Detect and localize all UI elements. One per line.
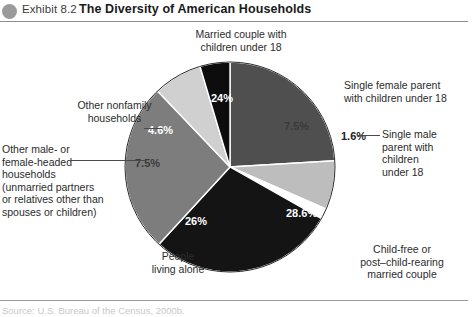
page-title: The Diversity of American Households bbox=[79, 2, 311, 16]
exhibit-figure: Exhibit 8.2 The Diversity of American Ho… bbox=[0, 0, 475, 317]
circle-bullet-icon bbox=[2, 4, 17, 19]
slice-value-single-female-parent: 7.5% bbox=[284, 120, 309, 132]
slice-value-married-couple-with-children: 24% bbox=[211, 92, 233, 104]
footer-divider bbox=[0, 300, 468, 301]
leader-line-other-nonfamily-households bbox=[144, 128, 162, 129]
slice-value-child-free-married-couple: 28.6% bbox=[286, 207, 317, 219]
slice-value-single-male-parent: 1.6% bbox=[341, 130, 366, 142]
callout-label-other-male-or-female-headed-households: Other male- or female-headed households … bbox=[2, 143, 140, 218]
callout-label-married-couple-with-children: Married couple with children under 18 bbox=[176, 28, 306, 53]
callout-label-child-free-married-couple: Child-free or post–child-rearing married… bbox=[341, 243, 463, 281]
slice-value-other-nonfamily-households: 4.6% bbox=[148, 124, 173, 136]
pie-slice-married-couple-with-children bbox=[230, 62, 335, 167]
figure-header: Exhibit 8.2 The Diversity of American Ho… bbox=[0, 0, 475, 24]
leader-line-other-male-or-female-headed-households bbox=[71, 160, 145, 161]
callout-label-single-male-parent: Single male parent with children under 1… bbox=[382, 128, 474, 178]
exhibit-number-label: Exhibit 8.2 bbox=[22, 3, 77, 15]
slice-value-people-living-alone: 26% bbox=[185, 215, 207, 227]
source-note: Source: U.S. Bureau of the Census, 2000b… bbox=[2, 305, 185, 316]
header-divider bbox=[0, 21, 468, 22]
leader-line-single-male-parent bbox=[358, 135, 380, 136]
callout-label-other-nonfamily-households: Other nonfamily households bbox=[62, 99, 167, 124]
callout-label-single-female-parent: Single female parent with children under… bbox=[344, 79, 472, 104]
callout-label-people-living-alone: People living alone bbox=[130, 250, 226, 275]
